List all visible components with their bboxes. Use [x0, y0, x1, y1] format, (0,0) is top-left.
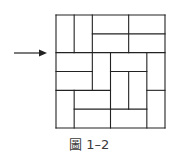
domino-tiling-figure: 圖 1–2	[0, 0, 178, 162]
figure-caption: 圖 1–2	[69, 137, 113, 153]
right-arrow-icon	[14, 50, 47, 57]
grid-lines	[56, 15, 165, 128]
